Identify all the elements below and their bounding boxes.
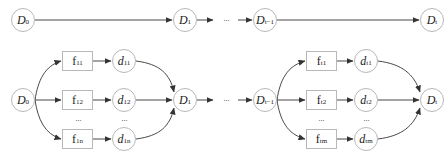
function-box-f11: f11 [62,51,93,71]
node-d0-top: D0 [11,8,35,32]
ellipsis-outputs-stage-t: ··· [363,115,369,125]
ellipsis-middle: ··· [223,95,229,105]
function-box-f12: f12 [62,90,93,110]
node-subscript: t−1 [265,19,274,26]
node-label: D [256,94,265,106]
function-box-f1n: f1n [62,129,93,149]
node-dt2: dt2 [354,88,378,112]
node-subscript: 1n [124,138,131,145]
node-subscript: 11 [124,60,131,67]
node-label: D [427,94,436,106]
node-subscript: 0 [26,19,30,26]
node-subscript: t [435,19,437,26]
node-subscript: t−1 [265,99,274,106]
node-label: D [17,94,26,106]
node-d1-top: D1 [173,8,197,32]
node-d12: d12 [112,88,136,112]
node-dt-bottom: Dt [420,88,444,112]
node-label: D [17,14,26,26]
node-label: D [179,94,188,106]
function-subscript: t2 [321,99,326,106]
node-d1-bottom: D1 [173,88,197,112]
node-subscript: tm [365,138,372,145]
node-d11: d11 [112,49,136,73]
node-subscript: 0 [26,99,30,106]
node-subscript: t1 [366,60,371,67]
function-box-ft1: ft1 [306,51,337,71]
node-d1n: d1n [112,127,136,151]
node-subscript: t2 [366,99,371,106]
function-subscript: tm [320,138,327,145]
node-dt-top: Dt [420,8,444,32]
ellipsis-functions-stage-t: ··· [318,115,324,125]
function-box-ft2: ft2 [306,90,337,110]
node-label: D [256,14,265,26]
ellipsis-functions-stage1: ··· [75,115,81,125]
function-subscript: 1n [76,138,83,145]
node-subscript: 1 [188,19,192,26]
node-dt-minus-1-bottom: Dt−1 [253,88,277,112]
function-subscript: t1 [321,60,326,67]
function-subscript: 12 [76,99,83,106]
function-subscript: 11 [76,60,83,67]
ellipsis-top: ··· [223,15,229,25]
node-dtm: dtm [354,127,378,151]
node-dt-minus-1-top: Dt−1 [253,8,277,32]
node-dt1: dt1 [354,49,378,73]
node-subscript: t [435,99,437,106]
ellipsis-outputs-stage1: ··· [121,115,127,125]
function-box-ftm: ftm [306,129,337,149]
node-label: D [427,14,436,26]
node-subscript: 1 [188,99,192,106]
node-label: D [179,14,188,26]
node-d0-bottom: D0 [11,88,35,112]
node-subscript: 12 [124,99,131,106]
